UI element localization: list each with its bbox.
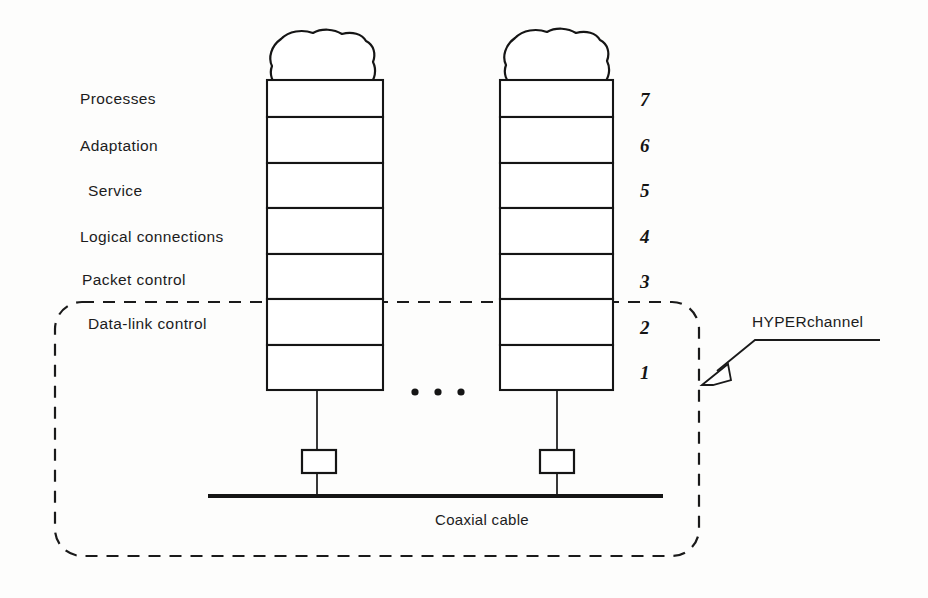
layer-number-3: 3 (639, 271, 650, 292)
layer-cell-3-right (500, 254, 613, 299)
layer-number-6: 6 (640, 135, 650, 156)
layer-cell-1-left (267, 345, 383, 390)
layer-cell-6-left (267, 117, 383, 163)
layer-label-processes: Processes (80, 90, 156, 107)
layer-cell-5-left (267, 163, 383, 208)
layer-cell-2-left (267, 299, 383, 345)
ellipsis-more-hosts (411, 388, 464, 395)
tap-box-right (540, 450, 574, 473)
layer-cell-4-left (267, 208, 383, 254)
callout-arrow-icon (702, 364, 731, 385)
host-stack-left (267, 30, 383, 496)
layer-number-2: 2 (639, 317, 650, 338)
layer-cell-1-right (500, 345, 613, 390)
layer-number-5: 5 (640, 180, 650, 201)
layer-label-service: Service (88, 182, 142, 199)
layer-cell-6-right (500, 117, 613, 163)
layer-cell-2-right (500, 299, 613, 345)
layer-cell-7-left (267, 80, 383, 117)
layer-cell-3-left (267, 254, 383, 299)
layer-label-packet-control: Packet control (82, 271, 186, 288)
hyperchannel-architecture-figure: Processes Adaptation Service Logical con… (0, 0, 928, 598)
hyperchannel-callout-label: HYPERchannel (752, 313, 863, 330)
tap-box-left (302, 450, 336, 473)
layer-label-adaptation: Adaptation (80, 137, 158, 154)
hyperchannel-callout-leader (702, 340, 880, 385)
layer-label-group: Processes Adaptation Service Logical con… (80, 90, 224, 332)
layer-number-1: 1 (640, 362, 650, 383)
layer-cell-7-right (500, 80, 613, 117)
layer-cell-5-right (500, 163, 613, 208)
layer-label-logical-connections: Logical connections (80, 228, 224, 245)
layer-number-7: 7 (640, 89, 651, 110)
layer-number-group: 7 6 5 4 3 2 1 (639, 89, 651, 383)
layer-number-4: 4 (639, 226, 650, 247)
layer-label-data-link-control: Data-link control (88, 315, 207, 332)
host-stack-right (500, 29, 613, 496)
coaxial-cable-label: Coaxial cable (435, 511, 529, 528)
layer-cell-4-right (500, 208, 613, 254)
